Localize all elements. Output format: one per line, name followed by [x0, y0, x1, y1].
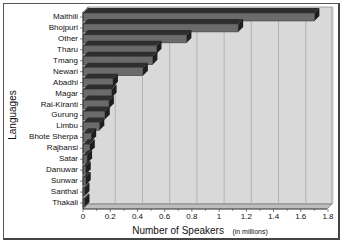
bar-chart: MaithiliBhojpuriOtherTharuTmangNewariAba… — [0, 0, 344, 245]
category-label: Satar — [59, 154, 78, 163]
category-label: Abadhi — [53, 78, 78, 87]
category-label: Magar — [55, 89, 78, 98]
category-label: Tmang — [53, 56, 78, 65]
category-label: Rajbansi — [47, 143, 78, 152]
y-axis-title: Languages — [7, 90, 18, 140]
x-tick-label: 1.4 — [268, 212, 280, 221]
x-tick-label: 1.6 — [295, 212, 307, 221]
category-label: Santhal — [51, 187, 78, 196]
category-label: Maithili — [53, 12, 78, 21]
x-tick-label: 0.8 — [186, 212, 198, 221]
x-tick-label: 0.2 — [105, 212, 117, 221]
x-axis-title: Number of Speakers (in millions) — [132, 220, 268, 237]
category-label: Newari — [53, 67, 78, 76]
category-label: Danuwar — [46, 165, 78, 174]
category-label: Bhojpuri — [49, 23, 79, 32]
x-tick-label: 1.2 — [241, 212, 253, 221]
category-label: Rai-Kiranti — [41, 100, 79, 109]
x-tick-label: 0.6 — [159, 212, 171, 221]
category-label: Thakali — [52, 198, 78, 207]
x-tick-label: 1 — [217, 212, 222, 221]
category-label: Other — [58, 34, 78, 43]
category-labels: MaithiliBhojpuriOtherTharuTmangNewariAba… — [29, 12, 83, 209]
category-label: Limbu — [56, 121, 78, 130]
x-tick-label: 0 — [81, 212, 86, 221]
category-label: Sunwar — [51, 176, 78, 185]
x-axis-ticks: 00.20.40.60.811.21.41.61.8 — [81, 209, 334, 221]
x-axis-title-main: Number of Speakers — [132, 225, 224, 236]
category-label: Gurung — [51, 110, 78, 119]
x-axis-title-unit: (in millions) — [232, 228, 267, 236]
category-label: Bhote Sherpa — [29, 132, 78, 141]
x-tick-label: 0.4 — [132, 212, 144, 221]
x-tick-label: 1.8 — [322, 212, 334, 221]
category-label: Tharu — [57, 45, 78, 54]
